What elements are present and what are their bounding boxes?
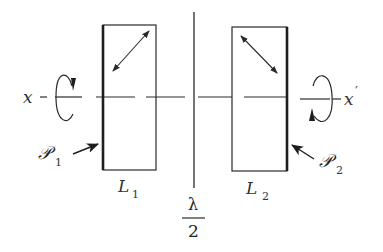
polarizer-arrow-P1-icon	[73, 144, 98, 154]
half-wave-label: λ 2	[182, 195, 205, 241]
axis-label-x: x	[23, 87, 33, 107]
polarization-arrow-L2-icon	[241, 36, 277, 73]
plate-label-L1: L 1	[117, 176, 139, 201]
svg-text:2: 2	[188, 221, 199, 241]
svg-text:L: L	[245, 178, 257, 198]
optical-diagram: x x ′ λ 2 L 1 L 2	[0, 0, 383, 252]
svg-text:1: 1	[132, 188, 139, 201]
optical-axis	[40, 97, 341, 99]
svg-text:2: 2	[336, 164, 343, 177]
svg-text:x: x	[344, 89, 354, 109]
svg-text:1: 1	[55, 156, 62, 169]
plate-L2	[232, 27, 287, 171]
svg-text:λ: λ	[188, 195, 198, 214]
polarizer-arrow-P2-icon	[292, 145, 314, 159]
polarization-arrow-L1-icon	[113, 31, 149, 71]
svg-text:L: L	[117, 176, 129, 196]
svg-text:2: 2	[262, 190, 269, 203]
rotation-arrow-left-icon	[56, 75, 76, 120]
plate-label-L2: L 2	[245, 178, 269, 203]
svg-text:′: ′	[355, 84, 358, 99]
polarizer-label-P1: 𝒫 1	[38, 142, 62, 169]
svg-text:𝒫: 𝒫	[38, 142, 56, 163]
svg-text:𝒫: 𝒫	[319, 150, 337, 171]
axis-label-x-prime: x ′	[344, 84, 358, 109]
polarizer-label-P2: 𝒫 2	[319, 150, 343, 177]
